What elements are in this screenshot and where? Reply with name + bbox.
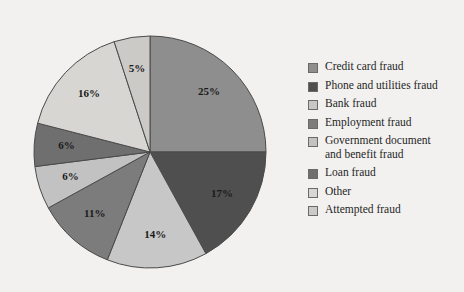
- pie-slice-label: 14%: [144, 228, 166, 240]
- legend-item[interactable]: Government document and benefit fraud: [308, 134, 460, 161]
- legend-swatch-icon: [308, 206, 318, 216]
- pie-slice-label: 6%: [58, 139, 75, 151]
- pie-chart-figure: 25%17%14%11%6%6%16%5% Credit card fraudP…: [0, 0, 464, 292]
- legend-item[interactable]: Phone and utilities fraud: [308, 79, 460, 93]
- legend-item-label: Phone and utilities fraud: [325, 79, 438, 93]
- legend-swatch-icon: [308, 119, 318, 129]
- pie-slice-label: 6%: [62, 170, 79, 182]
- legend-item-label: Bank fraud: [325, 97, 376, 111]
- legend-item[interactable]: Bank fraud: [308, 97, 460, 111]
- legend-item-label: Attempted fraud: [325, 203, 401, 217]
- pie-chart: 25%17%14%11%6%6%16%5%: [0, 0, 300, 292]
- legend-item[interactable]: Attempted fraud: [308, 203, 460, 217]
- legend-item-label: Government document and benefit fraud: [325, 134, 431, 161]
- pie-slice-label: 11%: [84, 207, 105, 219]
- legend-item[interactable]: Loan fraud: [308, 166, 460, 180]
- legend-swatch-icon: [308, 169, 318, 179]
- chart-legend: Credit card fraudPhone and utilities fra…: [308, 60, 460, 222]
- legend-swatch-icon: [308, 63, 318, 73]
- legend-item[interactable]: Credit card fraud: [308, 60, 460, 74]
- legend-item[interactable]: Employment fraud: [308, 116, 460, 130]
- pie-slice-label: 17%: [211, 187, 233, 199]
- legend-item[interactable]: Other: [308, 185, 460, 199]
- legend-swatch-icon: [308, 137, 318, 147]
- pie-slice-label: 25%: [198, 85, 220, 97]
- pie-slice-label: 5%: [129, 62, 146, 74]
- legend-item-label: Employment fraud: [325, 116, 412, 130]
- legend-swatch-icon: [308, 188, 318, 198]
- legend-item-label: Loan fraud: [325, 166, 376, 180]
- pie-slice-label: 16%: [78, 87, 100, 99]
- legend-item-label: Other: [325, 185, 351, 199]
- legend-item-label: Credit card fraud: [325, 60, 404, 74]
- legend-swatch-icon: [308, 82, 318, 92]
- legend-swatch-icon: [308, 100, 318, 110]
